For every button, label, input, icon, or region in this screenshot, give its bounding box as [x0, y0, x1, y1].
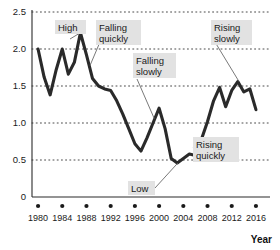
x-tick-label-2012: 2012 — [222, 213, 242, 223]
y-tick-label-1.0: 1.0 — [13, 117, 26, 128]
x-tick-label-1980: 1980 — [28, 213, 48, 223]
y-axis-tick-labels: 00.51.01.52.02.5 — [13, 6, 26, 202]
annotation-label-rising-slowly: Rising — [214, 22, 240, 33]
annotation-label-low: Low — [131, 183, 149, 194]
x-tick-dot-1996 — [133, 204, 137, 208]
x-tick-dot-1988 — [84, 204, 88, 208]
x-tick-label-1988: 1988 — [76, 213, 96, 223]
y-tick-label-2.0: 2.0 — [13, 43, 26, 54]
x-tick-dot-2004 — [181, 204, 185, 208]
annotation-label-rising-quickly: Rising — [196, 139, 222, 150]
annotation-label2-rising-slowly: slowly — [214, 33, 240, 44]
annotation-label2-rising-quickly: quickly — [196, 150, 225, 161]
line-chart: 00.51.01.52.02.5 19801984198819921996200… — [0, 0, 280, 250]
annotation-label-high: High — [58, 22, 78, 33]
annotation-leader-low — [155, 163, 178, 188]
x-tick-dot-2000 — [157, 204, 161, 208]
x-tick-label-2016: 2016 — [246, 213, 266, 223]
x-tick-label-2004: 2004 — [173, 213, 193, 223]
annotation-label2-falling-slowly: slowly — [136, 66, 162, 77]
x-tick-label-1996: 1996 — [125, 213, 145, 223]
x-tick-dot-2012 — [230, 204, 234, 208]
y-tick-label-2.5: 2.5 — [13, 6, 26, 17]
x-tick-dot-1992 — [109, 204, 113, 208]
x-axis-tick-labels: 1980198419881992199620002004200820122016 — [28, 213, 266, 223]
x-tick-label-2008: 2008 — [198, 213, 218, 223]
x-tick-dot-2016 — [254, 204, 258, 208]
y-tick-label-0.5: 0.5 — [13, 154, 26, 165]
annotation-label-falling-quickly: Falling — [99, 22, 127, 33]
x-tick-dot-2008 — [205, 204, 209, 208]
annotation-label2-falling-quickly: quickly — [99, 33, 128, 44]
annotation-label-falling-slowly: Falling — [136, 55, 164, 66]
x-tick-label-2000: 2000 — [149, 213, 169, 223]
x-axis-tick-dots — [36, 204, 258, 208]
annotation-leader-falling-quickly — [90, 42, 100, 65]
y-tick-label-0: 0 — [21, 191, 26, 202]
chart-canvas: 00.51.01.52.02.5 19801984198819921996200… — [0, 0, 280, 250]
x-axis-title: Year — [251, 234, 272, 245]
y-tick-label-1.5: 1.5 — [13, 80, 26, 91]
x-tick-dot-1980 — [36, 204, 40, 208]
x-tick-label-1992: 1992 — [101, 213, 121, 223]
x-tick-label-1984: 1984 — [52, 213, 72, 223]
x-tick-dot-1984 — [60, 204, 64, 208]
annotation-leader-rising-slowly — [215, 42, 239, 82]
annotation-leader-falling-slowly — [137, 79, 154, 119]
